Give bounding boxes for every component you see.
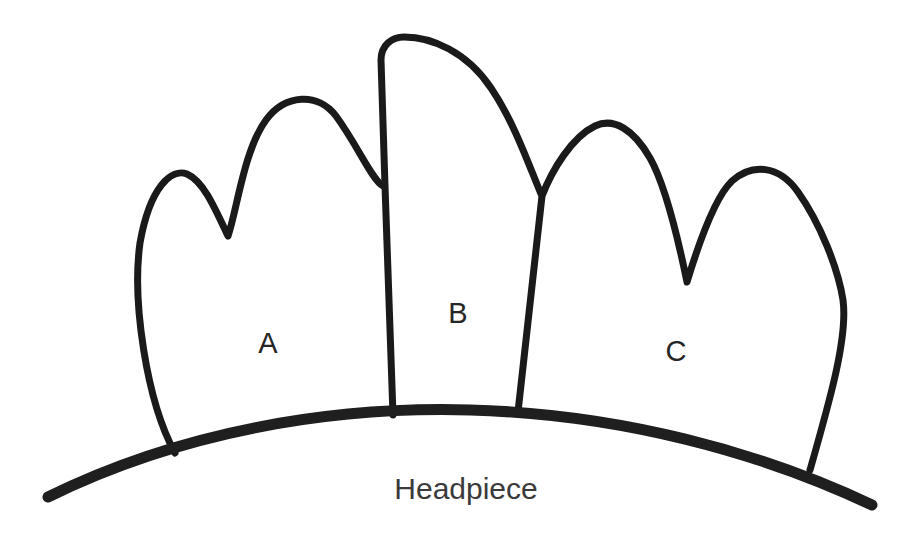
headpiece-diagram-canvas: A B C Headpiece bbox=[0, 0, 921, 539]
lobe-label-b: B bbox=[448, 297, 467, 329]
lobe-label-a: A bbox=[258, 327, 278, 359]
headpiece-diagram: A B C Headpiece bbox=[0, 0, 921, 539]
lobe-label-c: C bbox=[666, 335, 687, 367]
headpiece-caption: Headpiece bbox=[394, 472, 537, 505]
